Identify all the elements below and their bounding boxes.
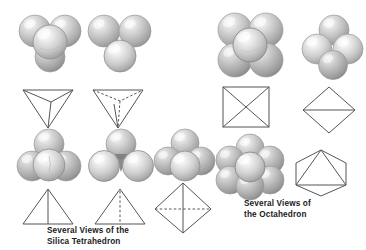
caption-silica-tetrahedron: Several Views of the Silica Tetrahedron [47, 226, 197, 247]
sphere-front [33, 149, 65, 181]
sphere [319, 51, 348, 80]
tetra-hidden-vertical [118, 101, 120, 128]
sphere [123, 151, 154, 182]
octa-model-top-left [214, 10, 286, 80]
tetra-model-top-left [18, 12, 84, 74]
tetra-wire-top-left [20, 84, 76, 130]
sphere-front [33, 25, 67, 59]
inscribed-triangle [296, 150, 346, 185]
tetra-outline [93, 90, 143, 128]
tetra-model-bottom-right [154, 128, 216, 184]
octa-wire-top-left [220, 84, 272, 130]
octa-wire-bottom [290, 147, 352, 199]
figure-canvas: Several Views of the Silica Tetrahedron … [0, 0, 366, 250]
tetra-wire-bottom-mid [92, 186, 148, 228]
octa-wire-top-right [300, 84, 358, 136]
tetra-model-top-mid [88, 12, 154, 74]
sphere-front [104, 40, 136, 72]
tetra-model-bottom-mid [88, 128, 154, 184]
sphere-front [170, 151, 200, 181]
octa-model-top-right [302, 14, 366, 80]
tetra-hidden-edges [93, 90, 143, 101]
tetra-wire-bottom-left [20, 186, 76, 228]
caption-octahedron: Several Views of the Octahedron [244, 199, 364, 220]
sphere-front [233, 28, 267, 62]
tetra-outline [23, 90, 73, 128]
tetra-model-bottom-left [16, 128, 82, 184]
octa-model-bottom [216, 134, 284, 198]
tetra-top-edges [23, 90, 73, 102]
sphere-front [235, 152, 265, 182]
hexagon-outline [296, 150, 346, 196]
tetra-wire-top-mid [90, 84, 146, 130]
sphere [89, 151, 120, 182]
